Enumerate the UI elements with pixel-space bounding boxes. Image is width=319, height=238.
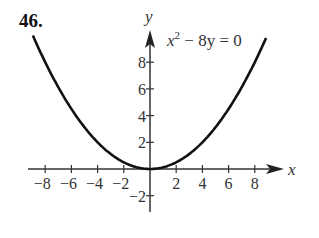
y-tick-label: −2 bbox=[129, 188, 146, 205]
y-tick-label: 8 bbox=[138, 54, 146, 71]
x-tick-label: −8 bbox=[34, 175, 51, 192]
equation-label: x2 − 8y = 0 bbox=[166, 29, 242, 50]
y-tick-label: 4 bbox=[138, 108, 146, 125]
x-tick-label: 4 bbox=[198, 175, 206, 192]
parabola-graph: −8−6−4−22468−22468 x y x2 − 8y = 0 bbox=[0, 0, 319, 238]
x-tick-label: −4 bbox=[86, 175, 103, 192]
y-tick-label: 6 bbox=[138, 81, 146, 98]
y-tick-label: 2 bbox=[138, 134, 146, 151]
x-tick-label: 6 bbox=[225, 175, 233, 192]
x-axis-label: x bbox=[287, 160, 296, 179]
x-tick-label: 8 bbox=[251, 175, 259, 192]
x-tick-label: −6 bbox=[60, 175, 77, 192]
y-axis-label: y bbox=[143, 7, 153, 26]
x-tick-label: 2 bbox=[172, 175, 180, 192]
tick-labels: −8−6−4−22468−22468 bbox=[34, 54, 259, 205]
x-tick-label: −2 bbox=[112, 175, 129, 192]
